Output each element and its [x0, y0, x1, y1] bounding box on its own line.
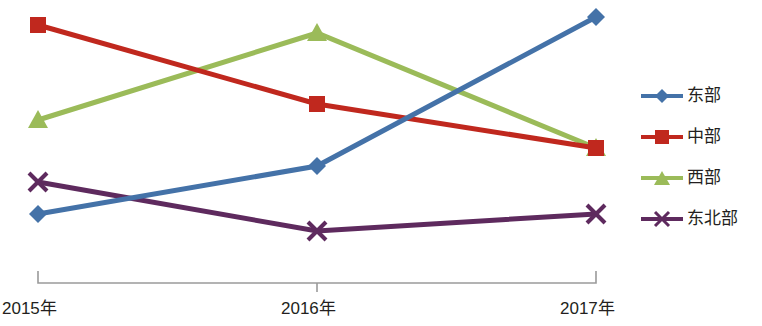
legend-item-central[interactable]: 中部	[640, 116, 758, 157]
legend-label-east: 东部	[684, 86, 721, 106]
legend-marker-diamond-icon	[640, 86, 684, 106]
data-point-marker	[30, 17, 46, 33]
legend-marker-x-icon	[640, 209, 684, 229]
data-point-marker	[29, 205, 47, 223]
plot-area: 2015年 2016年 2017年	[0, 0, 630, 300]
legend-item-northeast[interactable]: 东北部	[640, 198, 758, 239]
legend-item-west[interactable]: 西部	[640, 157, 758, 198]
legend-label-central: 中部	[684, 127, 721, 147]
series-line	[38, 182, 596, 231]
data-point-marker	[588, 140, 604, 156]
series-northeast	[29, 173, 605, 240]
data-point-marker	[308, 157, 326, 175]
legend-item-east[interactable]: 东部	[640, 75, 758, 116]
legend-label-northeast: 东北部	[684, 209, 738, 229]
data-point-marker	[307, 23, 327, 41]
x-tick-label-2015: 2015年	[2, 298, 57, 319]
x-axis	[38, 271, 596, 292]
chart-svg	[0, 0, 630, 300]
data-point-marker	[587, 8, 605, 26]
x-tick-label-2017: 2017年	[560, 298, 615, 319]
x-axis-line	[38, 271, 596, 283]
line-chart-figure: 2015年 2016年 2017年 东部 中部	[0, 0, 762, 326]
series-line	[38, 25, 596, 148]
legend-label-west: 西部	[684, 168, 721, 188]
legend-marker-square-icon	[640, 127, 684, 147]
series-group	[28, 8, 606, 240]
data-point-marker	[309, 96, 325, 112]
legend-marker-triangle-icon	[640, 168, 684, 188]
x-tick-label-2016: 2016年	[281, 298, 336, 319]
chart-legend: 东部 中部 西部	[640, 75, 758, 239]
